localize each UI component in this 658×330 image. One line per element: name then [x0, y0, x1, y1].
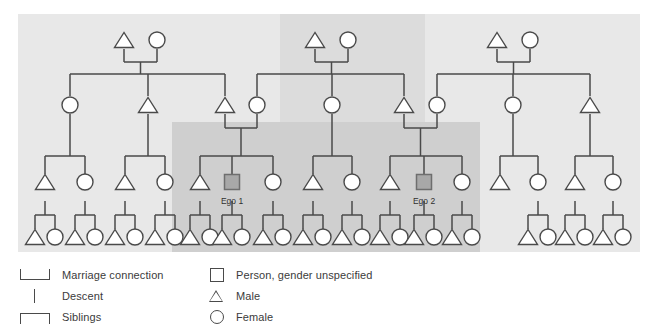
g4-female-11	[464, 229, 480, 245]
female-node-g2-7	[505, 97, 521, 113]
circle-icon	[208, 308, 226, 326]
legend-item-descent: Descent	[18, 287, 103, 305]
ego-label-2: Ego 2	[413, 196, 435, 206]
g1-female-2	[522, 32, 538, 48]
female-node-g2-3	[249, 97, 265, 113]
female-node-g3-15	[605, 174, 621, 190]
g4-female-5	[234, 229, 250, 245]
g4-female-12	[540, 229, 556, 245]
g1-female-1	[340, 32, 356, 48]
legend-item-marriage: Marriage connection	[18, 266, 164, 284]
female-node-g3-3	[157, 174, 173, 190]
female-node-g2-6	[429, 97, 445, 113]
g4-female-6	[275, 229, 291, 245]
kinship-diagram: Ego 1Ego 2	[0, 0, 658, 258]
legend-item-male: Male	[208, 287, 260, 305]
female-node-g2-0	[62, 97, 78, 113]
g4-female-2	[127, 229, 143, 245]
siblings-bracket-icon	[18, 308, 52, 326]
female-node-g3-6	[265, 174, 281, 190]
female-node-g3-1	[77, 174, 93, 190]
g4-female-0	[47, 229, 63, 245]
g4-female-14	[615, 229, 631, 245]
marriage-bracket-icon	[18, 266, 52, 284]
female-node-g2-4	[324, 97, 340, 113]
g4-female-8	[354, 229, 370, 245]
female-node-g3-13	[530, 174, 546, 190]
legend-label-siblings: Siblings	[62, 311, 101, 323]
g4-female-13	[577, 229, 593, 245]
g4-female-10	[426, 229, 442, 245]
legend: Marriage connection Descent Siblings Per…	[0, 258, 658, 330]
ego-node-g3-5	[225, 175, 240, 190]
kinship-diagram-page: Ego 1Ego 2 Marriage connection Descent S…	[0, 0, 658, 330]
ego-node-g3-10	[417, 175, 432, 190]
g1-female-0	[149, 32, 165, 48]
ego-label-1: Ego 1	[221, 196, 243, 206]
square-icon	[208, 266, 226, 284]
female-node-g3-8	[344, 174, 360, 190]
kinship-diagram-svg	[0, 0, 658, 258]
legend-label-female: Female	[236, 311, 273, 323]
legend-label-male: Male	[236, 290, 260, 302]
g4-female-7	[315, 229, 331, 245]
legend-item-siblings: Siblings	[18, 308, 101, 326]
g4-female-1	[87, 229, 103, 245]
female-node-g3-11	[454, 174, 470, 190]
legend-item-female: Female	[208, 308, 273, 326]
legend-label-person: Person, gender unspecified	[236, 269, 373, 281]
descent-line-icon	[18, 287, 52, 305]
legend-label-marriage: Marriage connection	[62, 269, 164, 281]
legend-label-descent: Descent	[62, 290, 103, 302]
legend-item-person: Person, gender unspecified	[208, 266, 373, 284]
g4-female-3	[167, 229, 183, 245]
triangle-icon	[208, 287, 226, 305]
